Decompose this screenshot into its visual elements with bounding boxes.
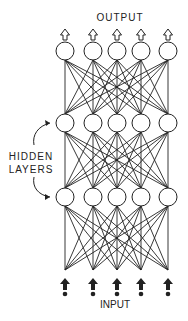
node-output [84,42,102,60]
input-dot [166,292,171,297]
arrowhead-icon [45,194,50,200]
input-dot [139,292,144,297]
arrowhead-icon [45,120,50,126]
node-output [108,42,126,60]
input-arrow-icon [163,278,173,290]
output-arrow-icon [61,29,70,40]
node-output [56,42,74,60]
neural-network-diagram [0,0,188,321]
input-arrow-icon [88,278,98,290]
node-hidden-2 [84,188,102,206]
input-arrow-icon [112,278,122,290]
node-hidden-2 [56,188,74,206]
node-output [132,42,150,60]
node-hidden-1 [159,114,177,132]
hidden-pointer-upper [34,123,50,145]
node-hidden-1 [108,114,126,132]
node-output [159,42,177,60]
node-hidden-2 [159,188,177,206]
input-arrow-icon [136,278,146,290]
input-dot [91,292,96,297]
node-hidden-2 [108,188,126,206]
output-arrow-icon [89,29,98,40]
input-arrow-icon [60,278,70,290]
output-arrow-icon [113,29,122,40]
output-arrow-icon [164,29,173,40]
input-dot [115,292,120,297]
node-hidden-2 [132,188,150,206]
node-hidden-1 [84,114,102,132]
node-hidden-1 [56,114,74,132]
node-hidden-1 [132,114,150,132]
hidden-pointer-lower [34,177,50,197]
output-arrow-icon [137,29,146,40]
input-dot [63,292,68,297]
